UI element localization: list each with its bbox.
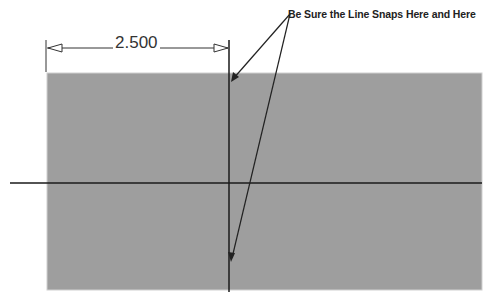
sketch-rectangle[interactable]	[47, 73, 482, 290]
dimension-arrow-right-icon	[214, 44, 228, 52]
dimension-value[interactable]: 2.500	[113, 33, 160, 53]
sketch-canvas	[0, 0, 489, 303]
annotation-note: Be Sure the Line Snaps Here and Here	[288, 8, 476, 20]
leader-line-top	[233, 14, 290, 79]
dimension-arrow-left-icon	[48, 44, 62, 52]
